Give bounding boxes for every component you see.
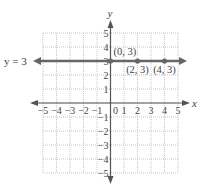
x-tick-label: 2 — [135, 105, 140, 116]
x-tick-label: −5 — [38, 105, 49, 116]
x-axis-arrow-right-icon — [182, 100, 190, 106]
y-tick-label: −4 — [98, 154, 109, 165]
y-tick-label: −2 — [98, 126, 109, 137]
y-tick-label: 4 — [104, 42, 109, 53]
data-point — [108, 58, 113, 63]
y-tick-label: −1 — [98, 112, 109, 123]
line-arrow-right-icon — [179, 57, 187, 65]
x-tick-label: 4 — [162, 105, 167, 116]
y-tick-label: 1 — [104, 84, 109, 95]
point-label: (2, 3) — [126, 64, 149, 76]
x-tick-label: 3 — [149, 105, 154, 116]
point-label: (4, 3) — [153, 64, 176, 76]
x-tick-label: −4 — [51, 105, 62, 116]
axes: x y — [30, 7, 197, 184]
y-tick-label: −5 — [98, 168, 109, 179]
y-tick-label: −3 — [98, 140, 109, 151]
equation-label: y = 3 — [4, 55, 27, 67]
data-point — [135, 58, 140, 63]
x-tick-label: 1 — [122, 105, 127, 116]
y-tick-label: 2 — [104, 70, 109, 81]
x-tick-label: 5 — [176, 105, 181, 116]
y-tick-label: 5 — [104, 28, 109, 39]
x-tick-label: 0 — [113, 105, 118, 116]
x-tick-label: −3 — [65, 105, 76, 116]
coordinate-plane: x y −5−4−3−2−1012345−5−4−3−2−112345 y = … — [0, 0, 199, 193]
data-point — [162, 58, 167, 63]
y-axis-arrow-up-icon — [108, 20, 114, 28]
y-axis-title: y — [107, 7, 113, 19]
x-axis-title: x — [191, 97, 197, 109]
point-label: (0, 3) — [114, 46, 137, 58]
line-arrow-left-icon — [33, 57, 41, 65]
x-tick-label: −2 — [78, 105, 89, 116]
